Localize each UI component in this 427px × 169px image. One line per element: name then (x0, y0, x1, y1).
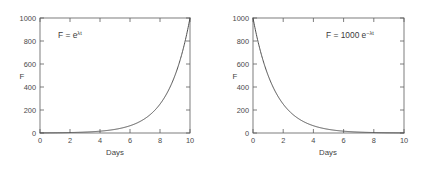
annotation-right-superscript: −λt (366, 30, 374, 36)
x-ticklabel-right-6: 6 (342, 136, 346, 145)
x-ticklabel-left-10: 10 (186, 136, 194, 145)
x-axis-title-right: Days (319, 148, 337, 157)
x-ticklabel-right-10: 10 (400, 136, 408, 145)
annotation-left: F = eλt (58, 30, 82, 40)
x-ticklabel-right-8: 8 (372, 136, 376, 145)
svg-text:F = eλt: F = eλt (58, 30, 82, 40)
x-ticklabel-right-4: 4 (311, 136, 315, 145)
y-ticklabel-left-600: 600 (24, 60, 36, 69)
x-ticklabel-left-2: 2 (68, 136, 72, 145)
y-ticklabel-right-200: 200 (237, 106, 249, 115)
annotation-left-prefix: F = e (58, 30, 78, 40)
y-ticklabel-left-400: 400 (24, 83, 36, 92)
x-axis-title-left: Days (106, 148, 124, 157)
x-ticklabel-right-0: 0 (251, 136, 255, 145)
y-ticklabel-left-800: 800 (24, 37, 36, 46)
x-ticklabel-left-8: 8 (158, 136, 162, 145)
y-axis-title-right: F (233, 72, 238, 81)
y-ticklabel-left-200: 200 (24, 106, 36, 115)
annotation-right: F = 1000 e−λt (326, 30, 374, 40)
x-ticklabel-left-0: 0 (38, 136, 42, 145)
figure-two-panel-exponential: 0 200 400 600 800 1000 0 2 4 6 8 10 F Da… (0, 0, 427, 169)
annotation-left-superscript: λt (77, 30, 82, 36)
x-ticklabel-right-2: 2 (281, 136, 285, 145)
x-ticklabel-left-4: 4 (98, 136, 102, 145)
x-ticklabel-left-6: 6 (128, 136, 132, 145)
y-ticklabel-right-800: 800 (237, 37, 249, 46)
y-ticklabel-left-1000: 1000 (20, 14, 36, 23)
annotation-right-prefix: F = 1000 e (326, 30, 367, 40)
y-axis-title-left: F (20, 72, 25, 81)
chart-panel-left: 0 200 400 600 800 1000 0 2 4 6 8 10 F Da… (0, 0, 213, 169)
y-ticklabel-right-600: 600 (237, 60, 249, 69)
y-ticklabel-left-0: 0 (32, 129, 36, 138)
chart-panel-right: 0 200 400 600 800 1000 0 2 4 6 8 10 F Da… (213, 0, 426, 169)
svg-text:F = 1000 e−λt: F = 1000 e−λt (326, 30, 374, 40)
y-ticklabel-right-1000: 1000 (233, 14, 249, 23)
y-ticklabel-right-400: 400 (237, 83, 249, 92)
y-ticklabel-right-0: 0 (245, 129, 249, 138)
